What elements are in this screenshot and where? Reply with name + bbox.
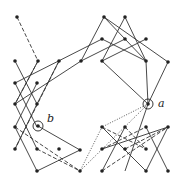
nodes	[13, 15, 170, 173]
graph-diagram: a b	[0, 0, 180, 181]
node-a-label: a	[158, 97, 165, 110]
node-b: b	[33, 112, 54, 131]
node-b-label: b	[47, 112, 54, 125]
